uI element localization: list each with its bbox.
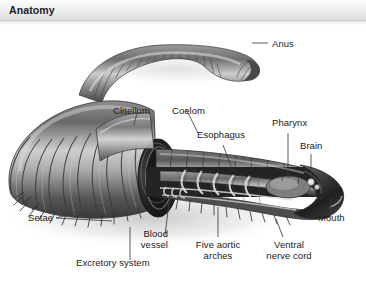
label-setae: Setae: [28, 212, 53, 223]
header-bar: Anatomy: [0, 0, 366, 21]
pharynx-highlight: [270, 178, 298, 190]
label-brain: Brain: [300, 140, 322, 151]
label-pharynx: Pharynx: [272, 117, 307, 128]
brain-ganglion: [308, 179, 315, 186]
label-coelom: Coelom: [172, 105, 205, 116]
label-clitellum: Clitellum: [113, 105, 150, 116]
label-esophagus: Esophagus: [197, 129, 245, 140]
brain-ganglion-lobe: [314, 184, 319, 189]
label-aortic-arches-line2: arches: [186, 250, 250, 261]
label-mouth: Mouth: [318, 212, 345, 223]
label-ventral-nerve-cord-line1: Ventral: [256, 239, 322, 250]
label-blood-vessel-line2: vessel: [118, 239, 168, 250]
label-aortic-arches-line1: Five aortic: [186, 239, 250, 250]
anatomy-figure-page: Anatomy: [0, 0, 366, 282]
label-anus: Anus: [272, 38, 294, 49]
label-excretory-system: Excretory system: [76, 257, 150, 268]
label-ventral-nerve-cord-line2: nerve cord: [256, 250, 322, 261]
page-title: Anatomy: [9, 4, 55, 16]
label-blood-vessel-line1: Blood: [118, 228, 168, 239]
